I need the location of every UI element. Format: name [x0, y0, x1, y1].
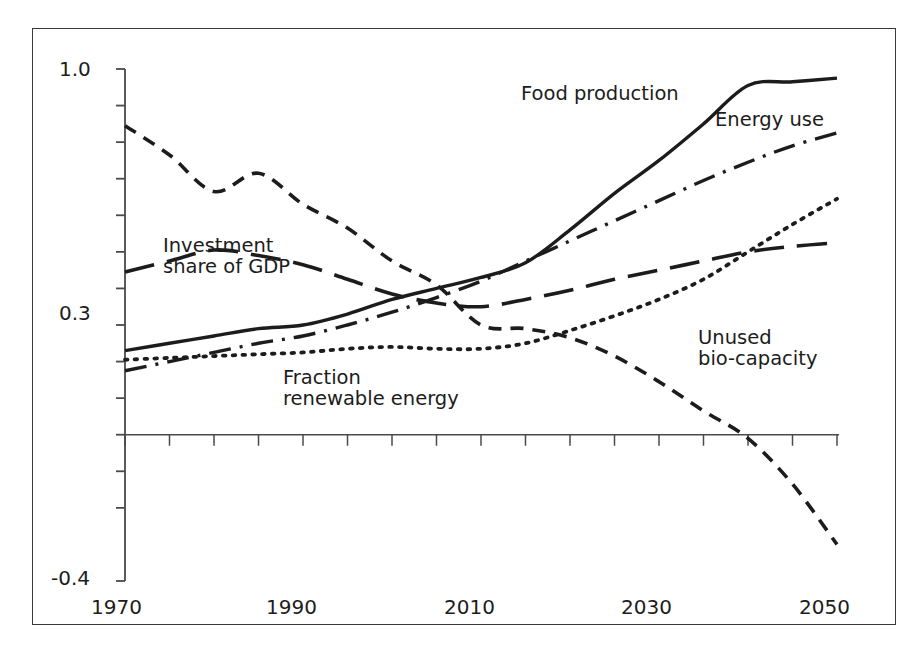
series-label-renewable-line1: Fraction [283, 367, 459, 388]
x-tick-label-1990: 1990 [266, 595, 317, 619]
y-tick-label-top: 1.0 [59, 57, 91, 81]
x-tick-label-1970: 1970 [91, 595, 142, 619]
page-bleed-text [0, 0, 923, 12]
series-label-fraction-renewable-energy: Fraction renewable energy [283, 367, 459, 409]
series-label-energy-use: Energy use [715, 109, 824, 130]
figure-page: 1.0 0.3 -0.4 1970 1990 2010 2030 2050 Fo… [0, 0, 923, 654]
figure-frame: 1.0 0.3 -0.4 1970 1990 2010 2030 2050 Fo… [32, 28, 896, 625]
x-tick-label-2010: 2010 [444, 595, 495, 619]
y-tick-label-mid: 0.3 [59, 301, 91, 325]
series-label-renewable-line2: renewable energy [283, 388, 459, 409]
series-label-investment-line1: Investment [163, 235, 290, 256]
x-tick-label-2050: 2050 [799, 595, 850, 619]
chart-series [125, 78, 837, 544]
series-label-food-production: Food production [521, 83, 679, 104]
series-label-unused-line1: Unused [698, 327, 817, 348]
x-tick-label-2030: 2030 [621, 595, 672, 619]
series-label-unused-bio-capacity: Unused bio-capacity [698, 327, 817, 369]
series-label-unused-line2: bio-capacity [698, 348, 817, 369]
series-label-investment-share-of-gdp: Investment share of GDP [163, 235, 290, 277]
series-label-investment-line2: share of GDP [163, 256, 290, 277]
y-tick-label-bottom: -0.4 [51, 566, 90, 590]
